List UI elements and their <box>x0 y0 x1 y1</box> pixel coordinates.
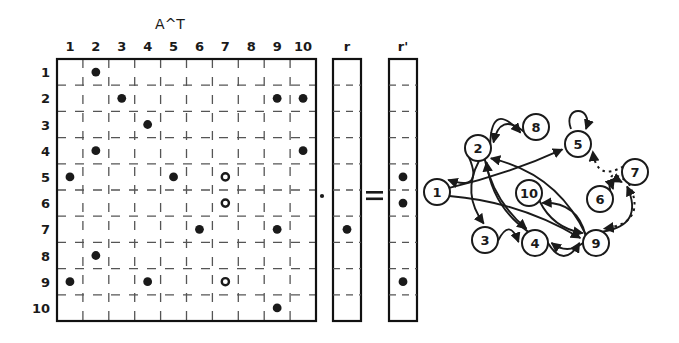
graph-node-7[interactable]: 7 <box>622 159 648 185</box>
matrix-row-headers: 12345678910 <box>32 65 50 316</box>
graph-edge-5-to-5-selfloop <box>569 111 587 129</box>
vector-r-gridlines <box>333 85 361 295</box>
matrix-column-headers: 12345678910 <box>65 39 312 54</box>
matrix-row-header-9: 9 <box>41 275 50 290</box>
matrix-col-header-1: 1 <box>65 39 74 54</box>
graph-node-label-7: 7 <box>630 165 639 180</box>
matrix-cell-hollow-r5c7[interactable] <box>222 173 229 180</box>
graph-node-10[interactable]: 10 <box>516 180 542 206</box>
matrix-col-header-5: 5 <box>169 39 178 54</box>
graph-edge-7-to-5 <box>593 151 624 171</box>
graph-node-label-9: 9 <box>591 236 600 251</box>
graph-node-1[interactable]: 1 <box>424 179 450 205</box>
matrix-cell-filled-r10c9[interactable] <box>273 304 282 313</box>
graph-node-5[interactable]: 5 <box>565 131 591 157</box>
matrix-cell-filled-r2c10[interactable] <box>299 94 308 103</box>
graph-node-8[interactable]: 8 <box>523 114 549 140</box>
matrix-cell-filled-r3c4[interactable] <box>143 120 152 129</box>
matrix-cell-filled-r2c9[interactable] <box>273 94 282 103</box>
graph-node-label-5: 5 <box>573 137 582 152</box>
matrix-cell-hollow-r9c7[interactable] <box>222 278 229 285</box>
matrix-cell-hollow-r6c7[interactable] <box>222 200 229 207</box>
matrix-col-header-10: 10 <box>294 39 312 54</box>
matrix-cell-filled-r9c1[interactable] <box>66 277 75 286</box>
equals-operator-icon <box>366 191 383 200</box>
matrix-row-header-7: 7 <box>41 222 50 237</box>
matrix-row-header-5: 5 <box>41 170 50 185</box>
graph-edge-8-to-2 <box>494 124 524 142</box>
vector-r-cell-filled-7[interactable] <box>343 225 352 234</box>
graph-node-label-1: 1 <box>432 185 441 200</box>
figure-svg: 12345678910 12345678910 r r' 12345678910 <box>0 0 679 343</box>
graph-node-2[interactable]: 2 <box>465 135 491 161</box>
matrix-cell-filled-r7c9[interactable] <box>273 225 282 234</box>
matrix-cell-filled-r5c1[interactable] <box>66 173 75 182</box>
matrix-row-header-10: 10 <box>32 301 50 316</box>
matrix-cell-filled-r4c2[interactable] <box>91 146 100 155</box>
vector-r-prime-cell-filled-6[interactable] <box>399 199 408 208</box>
matrix-row-header-3: 3 <box>41 118 50 133</box>
dot-operator-icon <box>320 194 324 198</box>
vector-r-prime-gridlines <box>389 85 417 295</box>
matrix-col-header-6: 6 <box>195 39 204 54</box>
matrix-row-header-2: 2 <box>41 91 50 106</box>
matrix-cell-filled-r1c2[interactable] <box>91 68 100 77</box>
matrix-cell-filled-r7c6[interactable] <box>195 225 204 234</box>
graph-edge-2-to-1 <box>448 158 473 184</box>
matrix-col-header-8: 8 <box>247 39 256 54</box>
matrix-col-header-7: 7 <box>221 39 230 54</box>
graph-node-4[interactable]: 4 <box>522 230 548 256</box>
matrix-cell-filled-r9c4[interactable] <box>143 277 152 286</box>
matrix-col-header-2: 2 <box>91 39 100 54</box>
vector-r-prime-cell-filled-9[interactable] <box>399 277 408 286</box>
graph-edge-9-to-10 <box>542 203 585 235</box>
graph-node-label-8: 8 <box>531 120 540 135</box>
graph-node-label-6: 6 <box>595 192 604 207</box>
graph-node-label-3: 3 <box>480 233 489 248</box>
matrix-cell-filled-r5c5[interactable] <box>169 173 178 182</box>
graph-node-label-4: 4 <box>530 236 539 251</box>
vector-r-prime-label: r' <box>398 39 408 54</box>
graph-node-3[interactable]: 3 <box>472 227 498 253</box>
matrix-col-header-9: 9 <box>273 39 282 54</box>
matrix-row-header-1: 1 <box>41 65 50 80</box>
matrix-col-header-4: 4 <box>143 39 152 54</box>
graph-node-6[interactable]: 6 <box>587 186 613 212</box>
graph-node-label-2: 2 <box>473 141 482 156</box>
graph-edge-3-to-4 <box>498 229 519 242</box>
figure-canvas: A^T 12345678910 12345678910 r r' <box>0 0 679 343</box>
graph-node-label-10: 10 <box>520 186 538 201</box>
matrix-cell-filled-r8c2[interactable] <box>91 251 100 260</box>
matrix-cell-filled-r2c3[interactable] <box>117 94 126 103</box>
matrix-row-header-6: 6 <box>41 196 50 211</box>
graph-node-9[interactable]: 9 <box>583 230 609 256</box>
vector-r-label: r <box>344 39 351 54</box>
vector-r-prime-cell-filled-5[interactable] <box>399 173 408 182</box>
vector-r-cells <box>343 225 352 234</box>
matrix-col-header-3: 3 <box>117 39 126 54</box>
matrix-row-header-4: 4 <box>41 144 50 159</box>
matrix-row-header-8: 8 <box>41 249 50 264</box>
matrix-cell-filled-r4c10[interactable] <box>299 146 308 155</box>
